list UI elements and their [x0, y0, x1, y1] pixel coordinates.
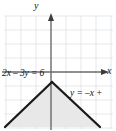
- x-axis: [2, 69, 109, 75]
- coordinate-plane-svg: [0, 0, 116, 131]
- graph-figure: y x 2x – 3y = 6 y = –x +: [0, 0, 116, 131]
- shaded-region: [5, 82, 100, 127]
